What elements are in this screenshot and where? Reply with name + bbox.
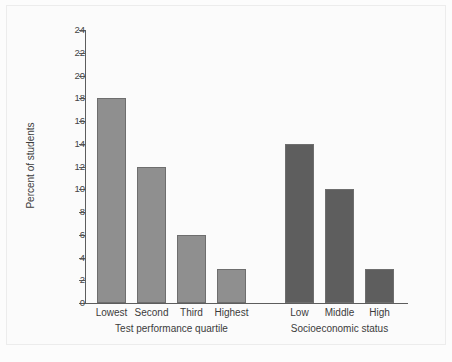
y-axis-tick-label-wrap: 24 bbox=[55, 30, 85, 31]
y-axis-tick-label-wrap: 6 bbox=[55, 235, 85, 236]
y-axis-tick-label: 16 bbox=[63, 116, 85, 126]
y-axis-line bbox=[85, 30, 86, 304]
y-axis-tick-label-wrap: 2 bbox=[55, 280, 85, 281]
bar bbox=[97, 98, 126, 303]
bar-chart-plot: Percent of students 24222018161412108642… bbox=[0, 0, 452, 362]
bar bbox=[285, 144, 314, 303]
y-axis-tick-label: 12 bbox=[63, 162, 85, 172]
chart-page: Percent of students 24222018161412108642… bbox=[0, 0, 452, 362]
y-axis-tick-label-wrap: 4 bbox=[55, 258, 85, 259]
category-label: High bbox=[355, 307, 404, 318]
bar bbox=[325, 189, 354, 303]
y-axis-tick-label-wrap: 20 bbox=[55, 76, 85, 77]
y-axis-tick-label-wrap: 0 bbox=[55, 303, 85, 304]
y-axis-tick-label: 22 bbox=[63, 48, 85, 58]
bar bbox=[137, 167, 166, 304]
y-axis-tick-label: 8 bbox=[63, 207, 85, 217]
y-axis-tick-label: 4 bbox=[63, 253, 85, 263]
y-axis-title: Percent of students bbox=[25, 106, 36, 226]
bar bbox=[177, 235, 206, 303]
y-axis-tick-label-wrap: 12 bbox=[55, 167, 85, 168]
y-axis-tick-label-wrap: 8 bbox=[55, 212, 85, 213]
bar bbox=[217, 269, 246, 303]
bar bbox=[365, 269, 394, 303]
y-axis-tick-label: 20 bbox=[63, 71, 85, 81]
y-axis-tick-label-wrap: 22 bbox=[55, 53, 85, 54]
y-axis-tick-label-wrap: 18 bbox=[55, 98, 85, 99]
y-axis-tick-label-wrap: 10 bbox=[55, 189, 85, 190]
y-axis-tick-label: 2 bbox=[63, 275, 85, 285]
category-label: Highest bbox=[207, 307, 256, 318]
y-axis-tick-label: 10 bbox=[63, 184, 85, 194]
x-axis-line bbox=[85, 303, 408, 304]
y-axis-tick-label: 0 bbox=[63, 298, 85, 308]
y-axis-tick-label-wrap: 14 bbox=[55, 144, 85, 145]
y-axis-tick-label-wrap: 16 bbox=[55, 121, 85, 122]
y-axis-tick-label: 24 bbox=[63, 25, 85, 35]
group-axis-title: Socioeconomic status bbox=[245, 323, 434, 334]
y-axis-tick-label: 6 bbox=[63, 230, 85, 240]
y-axis-tick-label: 18 bbox=[63, 93, 85, 103]
y-axis-tick-label: 14 bbox=[63, 139, 85, 149]
